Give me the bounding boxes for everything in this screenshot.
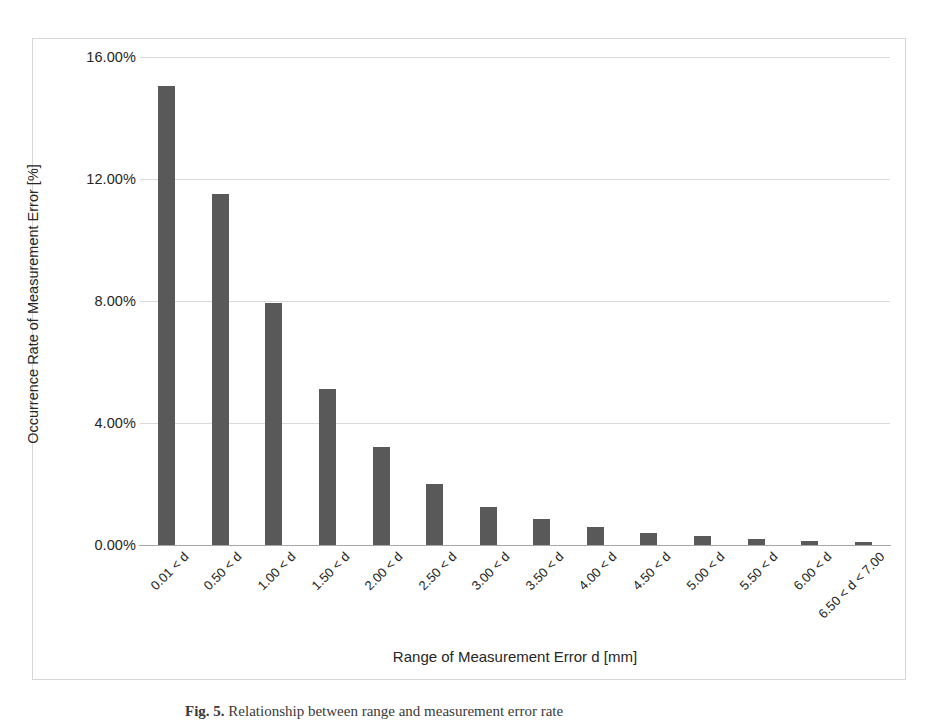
x-tick-label: 2.00 < d	[351, 549, 405, 603]
x-tick-label: 4.50 < d	[619, 549, 673, 603]
bar	[640, 533, 657, 545]
gridline-8	[140, 301, 890, 302]
x-tick-label: 2.50 < d	[405, 549, 459, 603]
bar	[265, 303, 282, 545]
bar	[587, 527, 604, 545]
x-tick-label: 6.00 < d	[780, 549, 834, 603]
x-tick-label: 0.01 < d	[137, 549, 191, 603]
y-axis-tick-labels: 16.00% 12.00% 8.00% 4.00% 0.00%	[8, 0, 136, 727]
bar	[373, 447, 390, 545]
bar	[480, 507, 497, 545]
gridline-12	[140, 179, 890, 180]
x-tick-label: 6.50 < d < 7.00	[794, 549, 888, 643]
bar	[158, 86, 175, 545]
plot-area	[140, 57, 890, 545]
gridline-4	[140, 423, 890, 424]
x-tick-label: 3.50 < d	[512, 549, 566, 603]
y-tick-label-4: 4.00%	[16, 416, 136, 431]
y-tick-label-8: 8.00%	[16, 294, 136, 309]
x-axis-title: Range of Measurement Error d [mm]	[140, 648, 890, 665]
x-tick-label: 4.00 < d	[566, 549, 620, 603]
bar	[533, 519, 550, 545]
bar-chart: Occurrence Rate of Measurement Error [%]…	[0, 0, 941, 727]
y-tick-label-12: 12.00%	[16, 172, 136, 187]
figure-caption: Fig. 5. Relationship between range and m…	[185, 703, 805, 720]
y-tick-label-16: 16.00%	[16, 50, 136, 65]
bar	[426, 484, 443, 545]
x-axis-line	[139, 545, 891, 546]
y-tick-label-0: 0.00%	[16, 538, 136, 553]
x-tick-label: 5.50 < d	[726, 549, 780, 603]
gridline-16	[140, 57, 890, 58]
x-tick-label: 5.00 < d	[673, 549, 727, 603]
x-tick-label: 0.50 < d	[191, 549, 245, 603]
x-tick-label: 3.00 < d	[458, 549, 512, 603]
bar	[212, 194, 229, 545]
bar	[319, 389, 336, 545]
figure-caption-label: Fig. 5.	[185, 703, 225, 719]
bar	[694, 536, 711, 545]
figure-caption-text: Relationship between range and measureme…	[228, 703, 563, 719]
x-tick-label: 1.50 < d	[298, 549, 352, 603]
x-tick-label: 1.00 < d	[244, 549, 298, 603]
